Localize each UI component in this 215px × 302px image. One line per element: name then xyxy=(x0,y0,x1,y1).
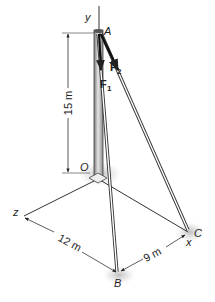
pole-cable-diagram: y A F 2 F 1 15 m O z 12 m 9 m C x B xyxy=(0,0,215,302)
point-A-label: A xyxy=(103,25,111,37)
dim-OB-label: 12 m xyxy=(56,231,83,253)
force-F2-label: F xyxy=(110,61,117,73)
y-axis-label: y xyxy=(84,11,92,23)
point-C-label: C xyxy=(194,227,202,239)
force-F1-label: F xyxy=(100,78,107,90)
z-axis-label: z xyxy=(12,206,19,218)
pole-top xyxy=(94,29,103,33)
z-axis-line xyxy=(24,180,96,216)
point-O-label: O xyxy=(80,161,89,173)
dim-9-line-a xyxy=(121,259,143,271)
force-F2-subscript: 2 xyxy=(117,67,122,76)
force-F1-subscript: 1 xyxy=(107,84,112,93)
dim-BC-label: 9 m xyxy=(141,245,163,264)
x-axis-label: x xyxy=(185,236,192,248)
dim-12-line-b xyxy=(82,252,116,272)
dim-9-line-b xyxy=(166,235,185,247)
dim-12-line-a xyxy=(25,218,54,232)
dim-height-label: 15 m xyxy=(62,91,74,115)
point-B-label: B xyxy=(114,277,121,289)
